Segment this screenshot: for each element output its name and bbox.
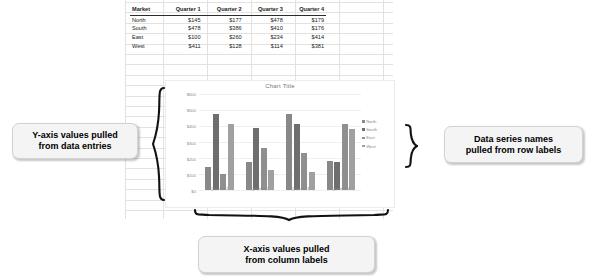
- embedded-chart[interactable]: Chart Title $0$100$200$300$400$500$600 Q…: [165, 80, 395, 208]
- table-row[interactable]: West$411$128$114$381: [130, 43, 326, 52]
- table-row[interactable]: South$478$386$410$176: [130, 25, 326, 34]
- data-cell[interactable]: $478: [244, 16, 285, 25]
- legend-swatch-icon: [362, 128, 365, 131]
- row-label-cell[interactable]: South: [130, 25, 161, 34]
- x-axis-tick-label: Quarter 1: [199, 186, 240, 196]
- callout-y-axis: Y-axis values pulledfrom data entries: [12, 123, 138, 159]
- bar-group: [240, 94, 281, 190]
- chart-bar[interactable]: [349, 129, 355, 190]
- callout-x-axis: X-axis values pulledfrom column labels: [198, 236, 375, 273]
- x-axis-tick-label: Quarter 3: [280, 186, 321, 196]
- y-axis-tick-label: $400: [187, 124, 196, 129]
- y-axis-tick-label: $200: [187, 156, 196, 161]
- legend-item[interactable]: South: [362, 127, 392, 132]
- chart-bar[interactable]: [301, 153, 307, 190]
- callout-x-axis-text: X-axis values pulledfrom column labels: [243, 244, 329, 266]
- data-cell[interactable]: $414: [285, 34, 326, 43]
- column-header-quarter-3[interactable]: Quarter 3: [244, 6, 285, 16]
- x-axis-brace: [193, 208, 390, 224]
- chart-bar[interactable]: [228, 124, 234, 190]
- data-cell[interactable]: $128: [203, 43, 244, 52]
- grid-row-line: [125, 64, 393, 65]
- data-cell[interactable]: $234: [244, 34, 285, 43]
- legend-swatch-icon: [362, 137, 365, 140]
- chart-bars: [199, 94, 361, 190]
- chart-title[interactable]: Chart Title: [166, 83, 394, 89]
- grid-row-line: [125, 75, 393, 76]
- y-axis-brace: [152, 86, 166, 202]
- chart-bar[interactable]: [294, 124, 300, 190]
- table-header-row: Market Quarter 1 Quarter 2 Quarter 3 Qua…: [130, 6, 326, 16]
- legend-label: East: [366, 135, 374, 140]
- callout-series-names: Data series namespulled from row labels: [444, 126, 583, 163]
- y-axis-tick-label: $600: [187, 92, 196, 97]
- data-cell[interactable]: $386: [203, 25, 244, 34]
- table-row[interactable]: North$145$177$478$179: [130, 16, 326, 25]
- chart-bar[interactable]: [286, 114, 292, 190]
- data-cell[interactable]: $176: [285, 25, 326, 34]
- bar-group: [321, 94, 362, 190]
- grid-row-line: [125, 54, 393, 55]
- legend-label: South: [366, 127, 377, 132]
- legend-swatch-icon: [362, 120, 365, 123]
- table-row[interactable]: East$100$260$234$414: [130, 34, 326, 43]
- table-body: North$145$177$478$179South$478$386$410$1…: [130, 16, 326, 52]
- legend-label: North: [366, 119, 376, 124]
- row-label-cell[interactable]: East: [130, 34, 161, 43]
- callout-series-names-text: Data series namespulled from row labels: [466, 134, 562, 156]
- data-cell[interactable]: $177: [203, 16, 244, 25]
- y-axis-tick-label: $500: [187, 108, 196, 113]
- column-header-quarter-2[interactable]: Quarter 2: [203, 6, 244, 16]
- chart-bar[interactable]: [261, 148, 267, 190]
- chart-bar[interactable]: [253, 128, 259, 190]
- legend-label: West: [366, 144, 375, 149]
- data-cell[interactable]: $381: [285, 43, 326, 52]
- data-cell[interactable]: $478: [161, 25, 202, 34]
- table-header: Market Quarter 1 Quarter 2 Quarter 3 Qua…: [130, 6, 326, 16]
- x-axis-tick-label: Quarter 4: [321, 186, 362, 196]
- callout-y-axis-text: Y-axis values pulledfrom data entries: [32, 130, 118, 152]
- legend-swatch-icon: [362, 145, 365, 148]
- data-cell[interactable]: $410: [244, 25, 285, 34]
- data-cell[interactable]: $411: [161, 43, 202, 52]
- column-header-quarter-1[interactable]: Quarter 1: [161, 6, 202, 16]
- chart-bar[interactable]: [213, 114, 219, 190]
- column-header-quarter-4[interactable]: Quarter 4: [285, 6, 326, 16]
- x-axis-tick-label: Quarter 2: [240, 186, 281, 196]
- data-cell[interactable]: $114: [244, 43, 285, 52]
- legend-item[interactable]: West: [362, 144, 392, 149]
- legend-item[interactable]: North: [362, 119, 392, 124]
- data-cell[interactable]: $100: [161, 34, 202, 43]
- data-cell[interactable]: $179: [285, 16, 326, 25]
- chart-x-axis: Quarter 1Quarter 2Quarter 3Quarter 4: [199, 186, 361, 196]
- row-label-cell[interactable]: North: [130, 16, 161, 25]
- y-axis-tick-label: $0: [191, 189, 196, 194]
- bar-group: [199, 94, 240, 190]
- grid-row-line: [125, 2, 393, 3]
- y-axis-tick-label: $300: [187, 140, 196, 145]
- column-header-market[interactable]: Market: [130, 6, 161, 16]
- data-cell[interactable]: $145: [161, 16, 202, 25]
- y-axis-tick-label: $100: [187, 172, 196, 177]
- chart-legend[interactable]: NorthSouthEastWest: [362, 119, 392, 149]
- data-cell[interactable]: $260: [203, 34, 244, 43]
- source-data-table[interactable]: Market Quarter 1 Quarter 2 Quarter 3 Qua…: [130, 6, 326, 51]
- row-label-cell[interactable]: West: [130, 43, 161, 52]
- series-brace: [404, 123, 418, 169]
- legend-item[interactable]: East: [362, 135, 392, 140]
- chart-plot-area: $0$100$200$300$400$500$600: [199, 94, 361, 190]
- bar-group: [280, 94, 321, 190]
- chart-bar[interactable]: [342, 124, 348, 190]
